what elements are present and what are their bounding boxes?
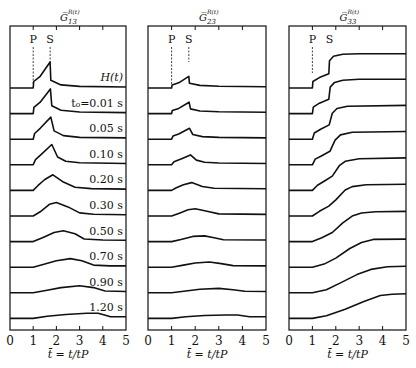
panel-title-sub: 13: [68, 18, 77, 26]
curve-label: 0.05 s: [89, 122, 123, 135]
curve-1-20-s: [148, 315, 266, 318]
curve-0-01-s: [289, 79, 406, 113]
curve-label: t₀=0.01 s: [71, 97, 123, 110]
curve-label: 0.70 s: [89, 250, 123, 263]
x-tick-label: 5: [262, 334, 270, 348]
figure: 012345t̄ = t/tPG̅13R(t)PSH(t)t₀=0.01 s0.…: [0, 0, 416, 368]
panel-title: G̅33R(t): [340, 8, 360, 26]
curve-0-10-s: [289, 132, 406, 165]
x-tick-label: 2: [332, 334, 340, 348]
marker-label-s: S: [185, 33, 193, 46]
x-tick-label: 1: [168, 334, 176, 348]
panel-title: G̅23R(t): [199, 8, 219, 26]
curve-0-30-s: [148, 209, 266, 216]
marker-label-p: P: [309, 33, 317, 46]
x-tick-label: 0: [285, 334, 293, 348]
curve-label: 0.20 s: [89, 173, 123, 186]
curve-0-01-s: [148, 102, 266, 113]
x-tick-label: 3: [215, 334, 223, 348]
curve-0-50-s: [148, 236, 266, 242]
plot-frame: [148, 26, 266, 330]
x-tick-label: 1: [29, 334, 37, 348]
curve-label: 0.50 s: [89, 225, 123, 238]
panel-title-sup: R(t): [346, 8, 359, 15]
panel-g13: 012345t̄ = t/tPG̅13R(t)PSH(t)t₀=0.01 s0.…: [6, 8, 130, 361]
panel-title-sub: 33: [348, 18, 357, 26]
x-tick-label: 4: [239, 334, 247, 348]
panel-title: G̅13R(t): [60, 8, 80, 26]
x-tick-label: 0: [144, 334, 152, 348]
panel-title-sup: R(t): [206, 8, 219, 15]
panel-title-main: G̅: [340, 12, 348, 23]
x-tick-label: 2: [53, 334, 61, 348]
panel-title-sub: 23: [206, 18, 216, 26]
x-tick-label: 4: [99, 334, 107, 348]
curve-0-70-s: [289, 239, 406, 267]
curve-label: 0.90 s: [89, 276, 123, 289]
curve-label: 0.10 s: [89, 148, 123, 161]
curve-label: 0.30 s: [89, 199, 123, 212]
curve-0-10-s: [148, 155, 266, 165]
x-tick-label: 1: [309, 334, 317, 348]
panel-g33: 012345t̄ = t/tPG̅33R(t)PS: [285, 8, 410, 361]
curve-0-90-s: [148, 288, 266, 292]
marker-label-s: S: [326, 33, 334, 46]
marker-label-p: P: [29, 33, 37, 46]
curve-h-t-: [148, 76, 266, 88]
panel-title-sup: R(t): [67, 8, 80, 15]
curve-label: 1.20 s: [89, 301, 123, 314]
panel-title-main: G̅: [199, 12, 207, 23]
curve-1-20-s: [289, 294, 406, 319]
curve-0-05-s: [148, 128, 266, 139]
x-tick-label: 5: [402, 334, 410, 348]
marker-label-p: P: [168, 33, 176, 46]
curve-0-70-s: [148, 262, 266, 267]
curve-0-20-s: [148, 183, 266, 191]
curve-h-t-: [289, 54, 406, 88]
curve-0-20-s: [289, 158, 406, 191]
x-tick-label: 3: [76, 334, 84, 348]
x-axis-label: t̄ = t/tP: [187, 348, 228, 361]
x-tick-label: 5: [122, 334, 130, 348]
x-tick-label: 0: [6, 334, 14, 348]
x-tick-label: 4: [379, 334, 387, 348]
panel-title-main: G̅: [60, 12, 68, 23]
x-tick-label: 2: [191, 334, 199, 348]
marker-label-s: S: [46, 33, 54, 46]
x-axis-label: t̄ = t/tP: [48, 348, 89, 361]
panel-g23: 012345t̄ = t/tPG̅23R(t)PS: [144, 8, 270, 361]
x-axis-label: t̄ = t/tP: [327, 348, 368, 361]
curve-label: H(t): [99, 71, 123, 84]
x-tick-label: 3: [355, 334, 363, 348]
curve-0-90-s: [289, 266, 406, 293]
plot-frame: [289, 26, 406, 330]
